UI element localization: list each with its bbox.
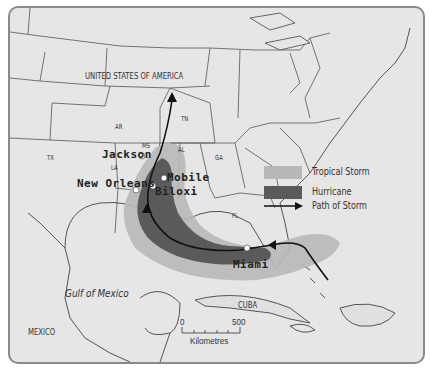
label-gulf-of-mexico: Gulf of Mexico bbox=[65, 288, 129, 299]
city-biloxi: Biloxi bbox=[155, 186, 198, 197]
scale-bar bbox=[182, 327, 240, 333]
map-frame: UNITED STATES OF AMERICA MEXICO CUBA Gul… bbox=[8, 6, 425, 364]
legend-tropical-storm: Tropical Storm bbox=[312, 167, 370, 177]
scale-start: 0 bbox=[180, 317, 185, 327]
label-state-al: AL bbox=[178, 147, 185, 154]
legend-hurricane: Hurricane bbox=[312, 187, 352, 197]
label-mexico: MEXICO bbox=[28, 328, 55, 337]
label-state-ga: GA bbox=[215, 155, 223, 162]
label-state-fl: FL bbox=[232, 213, 238, 220]
city-new-orleans: New Orleans bbox=[77, 178, 155, 189]
label-state-ar: AR bbox=[115, 124, 122, 131]
scale-end: 500 bbox=[232, 317, 246, 327]
city-miami: Miami bbox=[233, 259, 269, 270]
city-mobile: Mobile bbox=[167, 172, 210, 183]
label-state-la: LA bbox=[111, 165, 118, 172]
label-state-tx: TX bbox=[47, 155, 54, 162]
label-cuba: CUBA bbox=[238, 301, 257, 310]
city-jackson: Jackson bbox=[102, 149, 152, 160]
scale-unit: Kilometres bbox=[190, 336, 228, 346]
label-state-tn: TN bbox=[181, 116, 188, 123]
label-usa: UNITED STATES OF AMERICA bbox=[85, 72, 183, 81]
legend-path-of-storm: Path of Storm bbox=[312, 201, 367, 211]
map-canvas bbox=[10, 8, 423, 362]
